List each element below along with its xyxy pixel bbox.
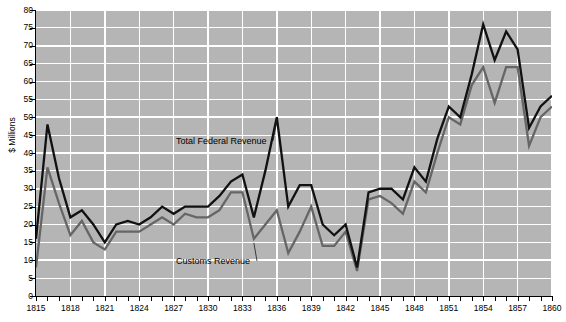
x-tick-mark <box>139 297 140 301</box>
x-tick-mark <box>208 297 209 301</box>
x-tick-mark <box>426 297 427 301</box>
x-tick-mark <box>483 297 484 301</box>
x-tick-mark <box>506 297 507 301</box>
x-tick-mark <box>128 297 129 301</box>
x-tick-mark <box>36 297 37 301</box>
x-tick-mark <box>460 297 461 301</box>
x-tick-mark <box>346 297 347 301</box>
x-tick-mark <box>414 297 415 301</box>
x-tick-mark <box>185 297 186 301</box>
x-tick-mark <box>323 297 324 301</box>
x-tick-mark <box>219 297 220 301</box>
x-tick-mark <box>518 297 519 301</box>
x-tick-mark <box>552 297 553 301</box>
x-tick-mark <box>242 297 243 301</box>
x-tick-mark <box>151 297 152 301</box>
x-tick-mark <box>380 297 381 301</box>
x-tick-mark <box>70 297 71 301</box>
x-tick-mark <box>403 297 404 301</box>
x-tick-mark <box>254 297 255 301</box>
x-tick-mark <box>231 297 232 301</box>
x-tick-mark <box>59 297 60 301</box>
x-tick-mark <box>47 297 48 301</box>
x-tick-mark <box>174 297 175 301</box>
x-tick-mark <box>265 297 266 301</box>
x-tick-label: 1860 <box>532 303 566 313</box>
x-tick-mark <box>437 297 438 301</box>
x-tick-mark <box>369 297 370 301</box>
x-tick-mark <box>300 297 301 301</box>
x-tick-mark <box>495 297 496 301</box>
x-tick-mark <box>162 297 163 301</box>
x-tick-mark <box>197 297 198 301</box>
x-tick-mark <box>529 297 530 301</box>
x-tick-mark <box>357 297 358 301</box>
x-tick-mark <box>472 297 473 301</box>
x-tick-mark <box>116 297 117 301</box>
x-tick-mark <box>82 297 83 301</box>
x-tick-mark <box>541 297 542 301</box>
x-tick-mark <box>449 297 450 301</box>
x-tick-mark <box>311 297 312 301</box>
x-tick-mark <box>277 297 278 301</box>
x-tick-mark <box>105 297 106 301</box>
x-tick-mark <box>288 297 289 301</box>
x-tick-mark <box>93 297 94 301</box>
x-tick-mark <box>391 297 392 301</box>
x-tick-mark <box>334 297 335 301</box>
